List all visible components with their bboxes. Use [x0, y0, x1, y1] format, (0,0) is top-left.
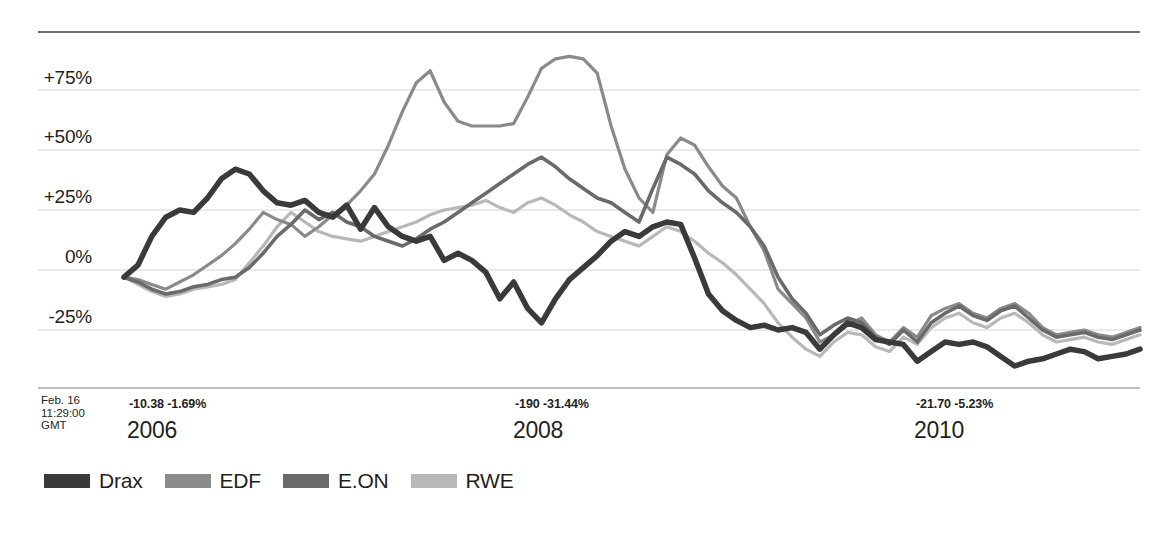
legend-item-eon[interactable]: E.ON: [283, 470, 389, 491]
series-line-rwe: [124, 198, 1140, 356]
timestamp-zone: GMT: [41, 419, 67, 431]
legend-label: Drax: [99, 470, 143, 491]
x-axis-label-2008: 2008: [513, 419, 563, 442]
legend-label: E.ON: [338, 470, 389, 491]
legend-label: EDF: [220, 470, 261, 491]
x-axis-label-2010: 2010: [914, 419, 964, 442]
timestamp-time: 11:29:00: [41, 407, 85, 419]
y-axis-label-50: +50%: [12, 127, 92, 146]
x-axis-label-2006: 2006: [127, 419, 177, 442]
legend-label: RWE: [466, 470, 514, 491]
chart-container: +75% +50% +25% 0% -25% Feb. 1611:29:00GM…: [0, 0, 1174, 535]
legend-swatch-icon: [411, 474, 457, 488]
delta-annotation-2006: -10.38 -1.69%: [129, 398, 206, 411]
legend-swatch-icon: [283, 474, 329, 488]
legend-swatch-icon: [44, 474, 90, 488]
series-group: [124, 56, 1140, 366]
y-axis-label-0: 0%: [12, 247, 92, 266]
y-axis-label-25: +25%: [12, 187, 92, 206]
y-axis-label-neg25: -25%: [12, 307, 92, 326]
delta-annotation-2008: -190 -31.44%: [515, 398, 589, 411]
y-axis-label-75: +75%: [12, 68, 92, 87]
legend-swatch-icon: [165, 474, 211, 488]
timestamp-block: Feb. 1611:29:00GMT: [41, 394, 85, 432]
chart-legend: DraxEDFE.ONRWE: [44, 470, 536, 491]
delta-annotation-2010: -21.70 -5.23%: [916, 398, 993, 411]
line-chart-plot: [0, 0, 1174, 535]
legend-item-edf[interactable]: EDF: [165, 470, 261, 491]
timestamp-date: Feb. 16: [41, 394, 80, 406]
series-line-drax: [124, 169, 1140, 366]
legend-item-rwe[interactable]: RWE: [411, 470, 514, 491]
legend-item-drax[interactable]: Drax: [44, 470, 143, 491]
grid-group: [38, 32, 1140, 388]
